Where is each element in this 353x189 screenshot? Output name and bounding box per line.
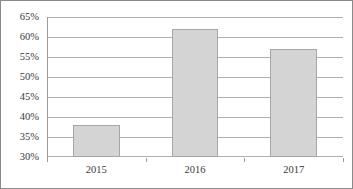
y-axis-tick-label: 40% — [20, 111, 39, 122]
x-axis-tick-labels: 201520162017 — [47, 160, 343, 186]
bar-chart: 30%35%40%45%50%55%60%65% 201520162017 — [0, 0, 353, 189]
y-axis-tick-label: 35% — [20, 131, 39, 142]
bar — [172, 29, 218, 157]
y-axis-tick-label: 60% — [20, 31, 39, 42]
x-axis-tick-mark — [343, 158, 344, 162]
x-axis-tick-label: 2016 — [146, 164, 245, 176]
bar — [270, 49, 316, 157]
x-axis-tick-label: 2015 — [47, 164, 146, 176]
y-axis-tick-label: 50% — [20, 71, 39, 82]
y-axis-tick-label: 55% — [20, 51, 39, 62]
bars-layer — [47, 17, 343, 157]
x-axis-tick-mark — [244, 158, 245, 162]
x-axis-tick-mark — [146, 158, 147, 162]
x-axis-tick-label: 2017 — [244, 164, 343, 176]
y-axis-tick-label: 30% — [20, 151, 39, 162]
y-axis-tick-label: 45% — [20, 91, 39, 102]
bar — [73, 125, 119, 157]
y-axis-tick-label: 65% — [20, 11, 39, 22]
y-axis-tick-labels: 30%35%40%45%50%55%60%65% — [0, 0, 44, 189]
x-axis-tick-mark — [47, 158, 48, 162]
